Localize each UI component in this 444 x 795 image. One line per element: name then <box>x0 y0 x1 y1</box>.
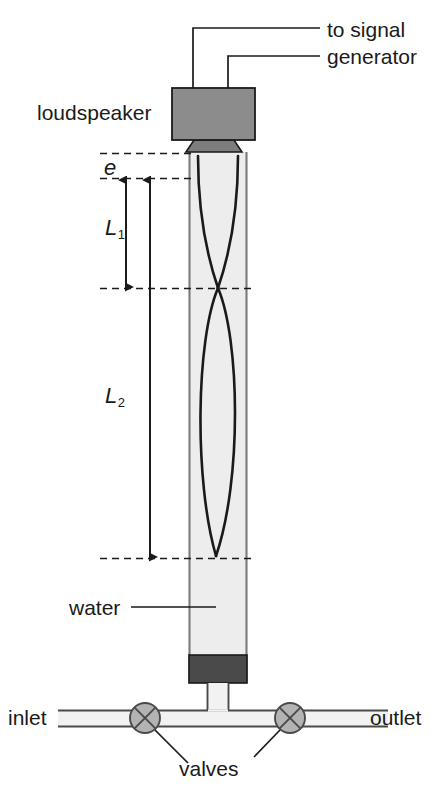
label-end-correction: e <box>104 156 116 181</box>
speaker-cone <box>186 140 242 152</box>
speaker-body <box>172 88 255 140</box>
label-valves: valves <box>179 757 239 781</box>
label-length-2-subscript: 2 <box>117 395 125 410</box>
label-to-signal: to signal <box>327 18 405 42</box>
valves-leader-right <box>254 730 280 757</box>
water-column-fill <box>190 152 247 683</box>
label-water: water <box>69 596 120 620</box>
drain-stem-fill <box>207 683 229 712</box>
loudspeaker-group <box>172 88 255 152</box>
label-generator: generator <box>327 45 417 69</box>
label-length-1: L1 <box>105 216 125 242</box>
label-length-1-subscript: 1 <box>117 227 125 242</box>
tube-group <box>190 152 248 683</box>
label-inlet: inlet <box>8 706 47 730</box>
resonance-tube-diagram: to signal generator loudspeaker e L1 L2 … <box>0 0 444 795</box>
tube-end-cap <box>189 655 247 683</box>
manifold-pipe-fill <box>58 710 388 726</box>
bottom-plumbing-group <box>58 655 388 763</box>
label-length-2-base: L <box>105 383 117 408</box>
lead-wire-upper <box>193 28 320 96</box>
dimension-arrows <box>126 180 150 557</box>
label-length-2: L2 <box>105 384 125 410</box>
label-loudspeaker: loudspeaker <box>37 101 151 125</box>
label-outlet: outlet <box>370 706 421 730</box>
label-length-1-base: L <box>105 215 117 240</box>
